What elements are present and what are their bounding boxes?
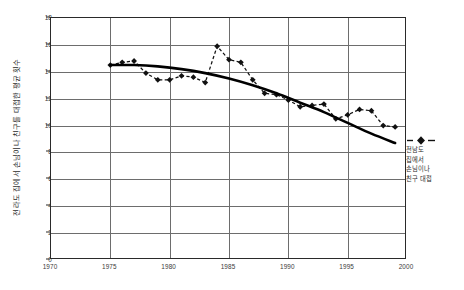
x-axis-tick-label: 1970 [30, 263, 70, 270]
legend: 전남도 집에서 손님이나 친구 대접 [406, 132, 464, 183]
data-point-marker [345, 112, 351, 118]
data-point-marker [202, 80, 208, 86]
plot-area [50, 17, 406, 259]
data-point-marker [357, 107, 363, 113]
x-axis-tick-label: 2000 [386, 263, 426, 270]
data-point-marker [179, 73, 185, 79]
legend-label-line-3: 손님이나 [406, 165, 464, 174]
x-axis-tick-label: 1985 [208, 263, 248, 270]
data-point-marker [131, 58, 137, 64]
legend-label-line-2: 집에서 [406, 156, 464, 165]
data-point-marker [155, 77, 161, 83]
y-axis-title: 전라도 집에서 손님이나 친구를 대접한 평균 횟수 [8, 14, 24, 260]
x-axis-tick-label: 1990 [267, 263, 307, 270]
legend-marker-icon [406, 132, 436, 143]
x-axis-tick-label: 1995 [327, 263, 367, 270]
legend-label-line-4: 친구 대접 [406, 175, 464, 184]
data-point-marker [167, 77, 173, 83]
data-series-layer [51, 18, 407, 260]
x-axis-tick-label: 1975 [89, 263, 129, 270]
data-point-marker [392, 124, 398, 130]
data-point-marker [143, 70, 149, 76]
data-point-marker [380, 123, 386, 129]
chart-figure: 전라도 집에서 손님이나 친구를 대접한 평균 횟수 0246810121416… [0, 0, 464, 290]
data-point-marker [191, 74, 197, 80]
legend-label-line-1: 전남도 [406, 146, 464, 155]
trend-line-series [110, 65, 395, 143]
data-point-marker [214, 43, 220, 49]
x-axis-tick-label: 1980 [149, 263, 189, 270]
